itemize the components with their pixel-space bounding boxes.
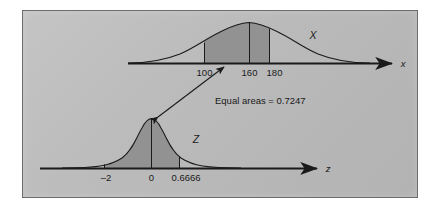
equal-areas-label: Equal areas = 0.7247 xyxy=(215,95,306,106)
top-tick-label-160: 160 xyxy=(242,67,258,78)
bottom-axis-label-z: z xyxy=(325,163,331,174)
figure-root: 100 160 180 X x –2 0 0.6666 xyxy=(0,0,446,217)
bottom-tick-label-06666: 0.6666 xyxy=(171,172,200,183)
bottom-distribution-group: –2 0 0.6666 Z z xyxy=(40,119,331,183)
top-tick-label-100: 100 xyxy=(197,67,213,78)
top-distribution-group: 100 160 180 X x xyxy=(128,23,407,78)
top-tick-label-180: 180 xyxy=(267,67,283,78)
equal-areas-annotation-group: Equal areas = 0.7247 xyxy=(158,67,306,117)
bottom-curve-label-z: Z xyxy=(192,133,200,145)
top-axis-label-x: x xyxy=(400,58,407,69)
bottom-tick-label-minus2: –2 xyxy=(101,172,112,183)
equal-areas-connector-arrow xyxy=(158,67,224,117)
distribution-diagram: 100 160 180 X x –2 0 0.6666 xyxy=(0,0,446,217)
top-curve-label-x: X xyxy=(308,29,317,41)
bottom-tick-label-0: 0 xyxy=(149,172,154,183)
